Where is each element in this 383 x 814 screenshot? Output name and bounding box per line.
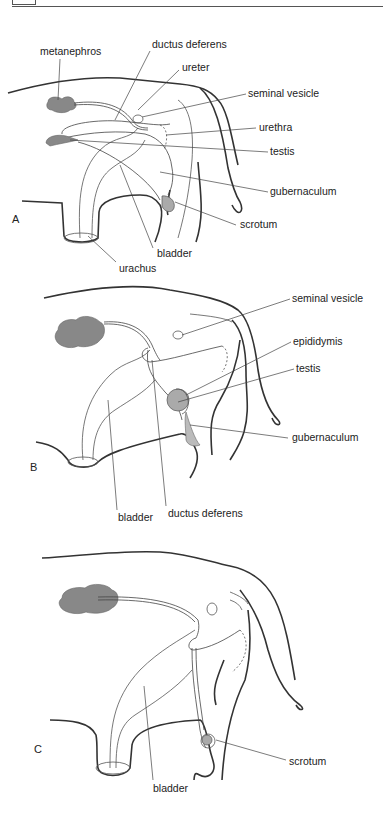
label-epididymis: epididymis [293,335,343,347]
panel-c-bladder [110,630,195,768]
label-urachus: urachus [119,262,156,274]
label-seminal-vesicle-a: seminal vesicle [248,87,319,99]
label-metanephros: metanephros [40,45,101,57]
label-urethra: urethra [259,121,292,133]
panel-a-testis [46,135,78,146]
label-scrotum-a: scrotum [240,218,278,230]
anatomy-diagram: metanephros ductus deferens ureter semin… [0,0,383,814]
panel-label-a: A [12,213,20,225]
panel-b-leg [211,340,240,455]
panel-b-belly [36,434,197,478]
panel-a: metanephros ductus deferens ureter semin… [8,38,337,274]
panel-b: seminal vesicle epididymis testis gubern… [30,287,363,523]
panel-c-leg [214,610,250,780]
panel-c-metanephros [59,584,118,613]
panel-a-scrotum [162,196,174,212]
panel-b-ductus-deferens [142,346,222,362]
label-bladder-b: bladder [118,511,154,523]
label-bladder-a: bladder [157,247,193,259]
panel-b-ureter [104,322,160,360]
panel-b-seminal-vesicle [173,331,183,339]
panel-c-umbilicus [96,762,130,774]
panel-a-bladder [79,128,145,238]
label-ductus-deferens-a: ductus deferens [152,38,227,50]
label-gubernaculum-a: gubernaculum [270,185,337,197]
label-ureter: ureter [182,61,210,73]
panel-c: scrotum bladder C [34,552,327,794]
label-seminal-vesicle-b: seminal vesicle [292,292,363,304]
panel-c-belly [50,720,214,780]
panel-label-b: B [30,461,37,473]
panel-c-seminal-vesicle [207,603,217,615]
figure-frame: metanephros ductus deferens ureter semin… [0,0,383,814]
panel-c-ductus-deferens [189,630,240,650]
panel-label-c: C [34,743,42,755]
panel-b-gubernaculum [185,412,200,446]
panel-a-metanephros [47,97,76,113]
label-scrotum-c: scrotum [289,755,327,767]
label-gubernaculum-b: gubernaculum [292,431,359,443]
panel-a-seminal-vesicle [133,115,143,123]
panel-b-body-outline [44,287,280,425]
label-testis-b: testis [296,362,321,374]
panel-b-urethra [222,346,227,372]
panel-b-metanephros [55,316,104,347]
panel-a-gubernaculum [78,142,160,200]
panel-b-tail [230,320,247,460]
panel-c-testis [202,735,212,745]
panel-c-urethra [232,630,246,672]
label-bladder-c: bladder [153,782,189,794]
panel-c-body-outline [42,552,295,680]
label-ductus-deferens-b: ductus deferens [168,507,243,519]
panel-a-inner-line [178,100,192,238]
label-testis-a: testis [270,145,295,157]
